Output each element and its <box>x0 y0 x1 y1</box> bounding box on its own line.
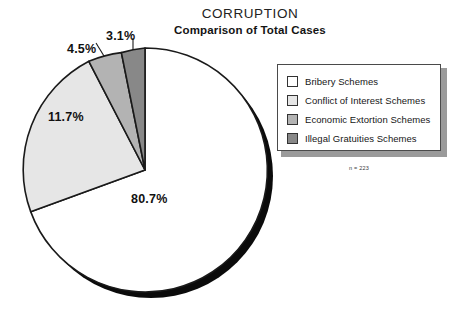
pie-slices <box>23 48 267 292</box>
pie-chart-figure: CORRUPTION Comparison of Total Cases 80.… <box>0 0 465 324</box>
legend-swatch-illegal-gratuities <box>287 133 298 144</box>
leader-line-economic-extortion <box>96 43 104 56</box>
legend-swatch-conflict-of-interest <box>287 95 298 106</box>
sample-size-note: n = 223 <box>277 165 441 171</box>
legend-label-conflict-of-interest: Conflict of Interest Schemes <box>305 95 425 106</box>
legend-item-illegal-gratuities: Illegal Gratuities Schemes <box>287 129 440 148</box>
legend-label-economic-extortion: Economic Extortion Schemes <box>305 114 430 125</box>
legend-swatch-economic-extortion <box>287 114 298 125</box>
slice-label-economic-extortion: 4.5% <box>67 42 96 56</box>
legend-label-illegal-gratuities: Illegal Gratuities Schemes <box>305 133 417 144</box>
chart-title: CORRUPTION <box>150 6 350 22</box>
legend: Bribery Schemes Conflict of Interest Sch… <box>277 64 441 151</box>
legend-label-bribery: Bribery Schemes <box>305 76 378 87</box>
slice-label-bribery: 80.7% <box>131 192 167 206</box>
legend-item-economic-extortion: Economic Extortion Schemes <box>287 110 440 129</box>
slice-label-illegal-gratuities: 3.1% <box>106 29 135 43</box>
legend-item-bribery: Bribery Schemes <box>287 72 440 91</box>
pie-graphic <box>0 34 280 324</box>
slice-label-conflict-of-interest: 11.7% <box>48 110 84 124</box>
legend-swatch-bribery <box>287 76 298 87</box>
legend-item-conflict-of-interest: Conflict of Interest Schemes <box>287 91 440 110</box>
